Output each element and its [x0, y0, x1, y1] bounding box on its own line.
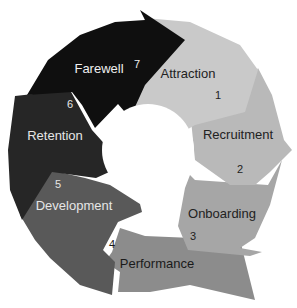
stage-number-onboarding: 3: [190, 230, 196, 242]
cycle-ring: Attraction 1 Recruitment 2 Onboarding 3 …: [0, 0, 297, 308]
hr-lifecycle-diagram: Attraction 1 Recruitment 2 Onboarding 3 …: [0, 0, 297, 308]
stage-label-onboarding: Onboarding: [188, 206, 256, 221]
center-hole: [102, 104, 194, 196]
stage-label-attraction: Attraction: [161, 66, 216, 81]
stage-number-retention: 6: [67, 98, 73, 110]
stage-number-farewell: 7: [134, 58, 140, 70]
stage-number-development: 5: [55, 178, 61, 190]
stage-number-attraction: 1: [215, 89, 221, 101]
stage-number-recruitment: 2: [237, 163, 243, 175]
stage-label-development: Development: [36, 198, 113, 213]
stage-label-retention: Retention: [27, 128, 83, 143]
stage-number-performance: 4: [109, 238, 115, 250]
stage-label-farewell: Farewell: [74, 61, 123, 76]
stage-label-performance: Performance: [120, 256, 194, 271]
stage-label-recruitment: Recruitment: [203, 127, 273, 142]
